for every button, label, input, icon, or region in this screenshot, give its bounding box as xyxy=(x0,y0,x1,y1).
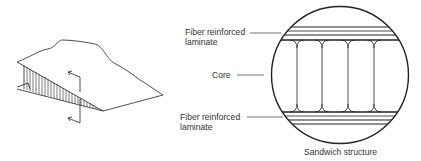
caption-sandwich-structure: Sandwich structure xyxy=(304,147,377,157)
sandwich-panel-illustration xyxy=(17,40,163,123)
label-bottom-laminate: Fiber reinforced laminate xyxy=(180,112,240,132)
cross-section-magnifier xyxy=(260,7,420,144)
label-top-laminate: Fiber reinforced laminate xyxy=(185,27,245,47)
diagram-canvas xyxy=(0,0,421,161)
label-core: Core xyxy=(212,70,231,80)
